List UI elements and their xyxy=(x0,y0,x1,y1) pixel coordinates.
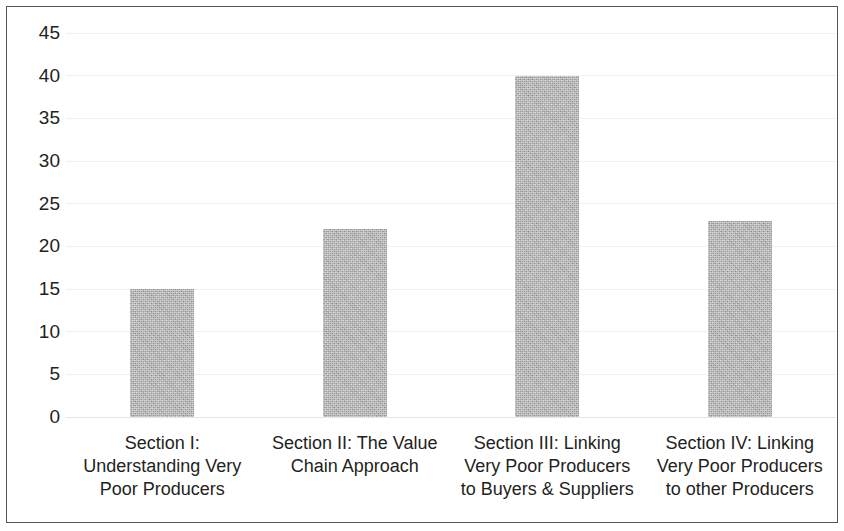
y-axis-tick-label: 5 xyxy=(16,364,60,383)
x-axis-tick-label-line: Section I: xyxy=(66,432,259,455)
bar-chart-figure: 454035302520151050 Section I:Understandi… xyxy=(0,0,844,531)
x-axis-tick-label: Section I:Understanding VeryPoor Produce… xyxy=(66,432,259,501)
x-axis-tick-label-line: Understanding Very xyxy=(66,455,259,478)
y-axis-tick-label: 35 xyxy=(16,108,60,127)
x-axis-tick-label-line: Section II: The Value xyxy=(259,432,452,455)
x-axis: Section I:Understanding VeryPoor Produce… xyxy=(66,432,836,512)
bar xyxy=(515,76,579,417)
y-axis: 454035302520151050 xyxy=(8,33,60,417)
y-axis-tick-label: 25 xyxy=(16,194,60,213)
bar-slot xyxy=(644,33,837,417)
x-axis-tick-label-line: Section IV: Linking xyxy=(644,432,837,455)
bar xyxy=(323,229,387,417)
bar xyxy=(708,221,772,417)
x-axis-tick-label-line: to Buyers & Suppliers xyxy=(451,478,644,501)
x-axis-tick-label-line: to other Producers xyxy=(644,478,837,501)
y-axis-tick-label: 30 xyxy=(16,151,60,170)
x-axis-tick-label-line: Very Poor Producers xyxy=(451,455,644,478)
y-axis-tick-label: 0 xyxy=(16,407,60,426)
x-axis-tick-label-line: Section III: Linking xyxy=(451,432,644,455)
bar xyxy=(130,289,194,417)
y-axis-tick-label: 40 xyxy=(16,66,60,85)
y-axis-tick-label: 20 xyxy=(16,236,60,255)
x-axis-tick-label: Section IV: LinkingVery Poor Producersto… xyxy=(644,432,837,501)
plot-area xyxy=(66,33,836,417)
x-axis-tick-label-line: Chain Approach xyxy=(259,455,452,478)
x-axis-tick-label-line: Very Poor Producers xyxy=(644,455,837,478)
y-axis-tick-label: 10 xyxy=(16,322,60,341)
bar-slot xyxy=(66,33,259,417)
y-axis-tick-label: 45 xyxy=(16,23,60,42)
x-axis-tick-label-line: Poor Producers xyxy=(66,478,259,501)
x-axis-tick-label: Section III: LinkingVery Poor Producerst… xyxy=(451,432,644,501)
x-axis-tick-label: Section II: The ValueChain Approach xyxy=(259,432,452,478)
bar-slot xyxy=(259,33,452,417)
bar-slot xyxy=(451,33,644,417)
y-axis-tick-label: 15 xyxy=(16,279,60,298)
